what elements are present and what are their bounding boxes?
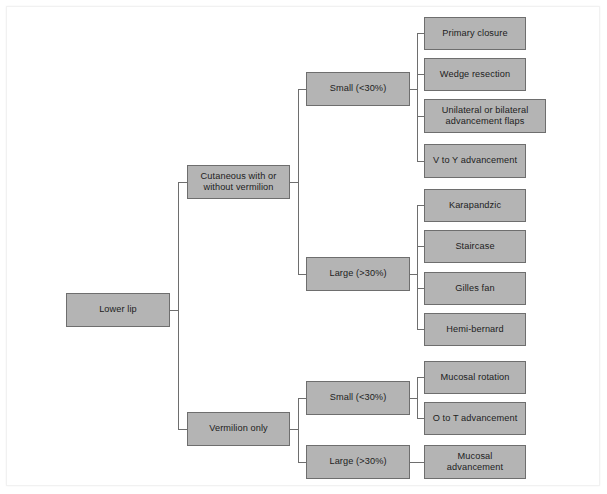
connector-cut-large-trunk: [417, 205, 418, 330]
node-unilateral-or-bilateral-advancement-flaps[interactable]: Unilateral or bilateral advancement flap…: [424, 99, 546, 133]
node-cutaneous-large[interactable]: Large (>30%): [306, 257, 410, 291]
node-primary-closure[interactable]: Primary closure: [424, 17, 526, 50]
node-cutaneous-with-or-without-vermilion[interactable]: Cutaneous with or without vermilion: [187, 165, 290, 199]
node-v-to-y-advancement[interactable]: V to Y advancement: [424, 144, 526, 178]
node-karapandzic[interactable]: Karapandzic: [424, 189, 526, 222]
node-hemi-bernard[interactable]: Hemi-bernard: [424, 313, 526, 346]
node-cutaneous-small[interactable]: Small (<30%): [306, 72, 410, 106]
node-mucosal-advancement[interactable]: Mucosal advancement: [424, 445, 526, 479]
connector-vermilion-trunk: [298, 398, 299, 462]
node-mucosal-rotation[interactable]: Mucosal rotation: [424, 361, 526, 394]
node-lower-lip[interactable]: Lower lip: [66, 293, 170, 327]
node-vermilion-large[interactable]: Large (>30%): [306, 445, 410, 479]
connector-cut-small-trunk: [417, 33, 418, 161]
connector-verm-large-to-mucosal-advancement: [410, 462, 425, 463]
node-staircase[interactable]: Staircase: [424, 230, 526, 263]
flowchart-canvas: Lower lip Cutaneous with or without verm…: [0, 0, 607, 494]
connector-verm-small-trunk: [417, 377, 418, 419]
node-o-to-t-advancement[interactable]: O to T advancement: [424, 402, 526, 435]
node-gilles-fan[interactable]: Gilles fan: [424, 272, 526, 305]
connector-cutaneous-trunk: [298, 89, 299, 275]
node-vermilion-only[interactable]: Vermilion only: [187, 412, 290, 446]
connector-root-trunk: [178, 182, 179, 429]
node-wedge-resection[interactable]: Wedge resection: [424, 58, 526, 91]
node-vermilion-small[interactable]: Small (<30%): [306, 381, 410, 415]
